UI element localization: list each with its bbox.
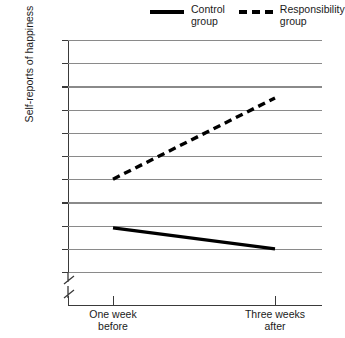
y-axis-title: Self-reports of happiness: [23, 0, 35, 139]
x-axis-line: [68, 305, 322, 306]
chart-legend: Control group Responsibility group: [150, 4, 345, 27]
series-line-control: [113, 228, 275, 249]
x-axis-tick: [275, 296, 276, 305]
plot-area: [68, 40, 322, 272]
legend-item-responsibility: Responsibility group: [239, 4, 345, 27]
solid-line-swatch: [150, 10, 184, 14]
series-container: [68, 40, 322, 272]
x-axis-tick-label: One week before: [65, 309, 161, 332]
x-axis-tick: [113, 296, 114, 305]
y-axis-break-icon: [60, 270, 82, 300]
legend-label-control: Control group: [191, 4, 225, 27]
x-axis-tick-label: Three weeks after: [227, 309, 323, 332]
legend-item-control: Control group: [150, 4, 225, 27]
gridline: [68, 272, 322, 273]
legend-label-responsibility: Responsibility group: [280, 4, 345, 27]
dashed-line-swatch: [239, 10, 273, 14]
series-line-responsibility: [113, 98, 275, 179]
